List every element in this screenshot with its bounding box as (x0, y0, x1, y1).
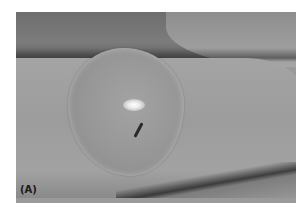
light-reflection (123, 99, 145, 111)
clinical-photo: (A) (16, 12, 296, 203)
panel-label: (A) (20, 184, 37, 195)
